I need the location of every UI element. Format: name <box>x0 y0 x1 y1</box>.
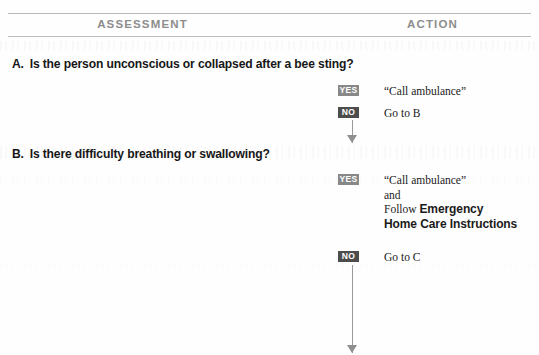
header-rule-top <box>8 13 531 14</box>
flow-arrow-b-to-c <box>347 265 358 353</box>
scan-noise-band <box>0 41 539 50</box>
badge-yes: YES <box>338 174 359 185</box>
column-header-action: ACTION <box>330 18 535 30</box>
action-text-b-no: Go to C <box>384 250 420 265</box>
column-header-assessment: ASSESSMENT <box>0 18 285 30</box>
arrow-shaft <box>352 265 353 353</box>
question-b-letter: B. <box>12 147 24 161</box>
action-emergency-bold: Emergency <box>419 202 483 216</box>
question-b-text: Is there difficulty breathing or swallow… <box>30 147 270 161</box>
action-line-home-care-instructions: Home Care Instructions <box>384 217 517 232</box>
question-b: B.Is there difficulty breathing or swall… <box>12 147 270 161</box>
arrow-head-icon <box>347 135 357 143</box>
question-a-text: Is the person unconscious or collapsed a… <box>30 57 354 71</box>
flowchart-page: ASSESSMENT ACTION A.Is the person uncons… <box>0 0 539 355</box>
badge-yes: YES <box>338 85 359 96</box>
header-rule-bottom <box>8 36 531 37</box>
flow-arrow-a-to-b <box>347 120 358 143</box>
action-text-a-no: Go to B <box>384 106 420 121</box>
badge-no: NO <box>338 251 359 262</box>
scan-noise-band <box>0 262 539 269</box>
action-text-a-yes: “Call ambulance” <box>384 84 466 99</box>
action-line-call-ambulance: “Call ambulance” <box>384 173 517 188</box>
action-follow-prefix: Follow <box>384 203 419 215</box>
action-line-and: and <box>384 188 517 203</box>
badge-no: NO <box>338 107 359 118</box>
action-line-follow-emergency: Follow Emergency <box>384 202 517 217</box>
action-text-b-yes: “Call ambulance” and Follow Emergency Ho… <box>384 173 517 231</box>
arrow-head-icon <box>347 345 357 353</box>
question-a-letter: A. <box>12 57 24 71</box>
question-a: A.Is the person unconscious or collapsed… <box>12 57 354 71</box>
